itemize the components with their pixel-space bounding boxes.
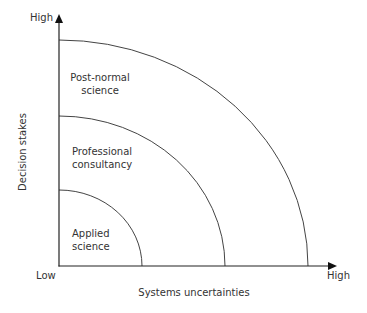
x-axis-title: Systems uncertainties: [138, 287, 249, 298]
y-axis-high-label: High: [30, 12, 53, 23]
zone-post-normal-line2: science: [81, 85, 119, 96]
y-axis-title: Decision stakes: [17, 113, 28, 191]
zone-professional-line2: consultancy: [72, 159, 132, 170]
x-axis-arrow-icon: [328, 262, 337, 270]
x-axis-low-label: Low: [36, 270, 56, 281]
x-axis-high-label: High: [327, 270, 350, 281]
zone-applied-line1: Applied: [72, 228, 110, 239]
zone-professional-line1: Professional: [72, 146, 132, 157]
y-axis-arrow-icon: [55, 14, 63, 23]
zone-applied-line2: science: [72, 241, 110, 252]
zone-post-normal-line1: Post-normal: [70, 72, 130, 83]
post-normal-science-diagram: High Low High Systems uncertainties Deci…: [0, 0, 367, 313]
